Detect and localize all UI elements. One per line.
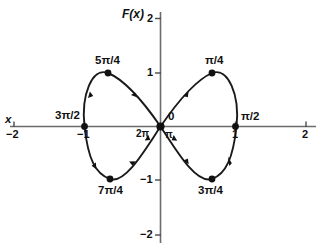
annotation-7pi-over-4: 7π/4: [98, 185, 123, 197]
annotation-pi-over-2: π/2: [241, 111, 259, 123]
x-tick-label--1: −1: [77, 129, 90, 140]
plot-canvas: [0, 0, 321, 251]
annotation-origin-zero: 0: [168, 111, 174, 123]
x-axis-label: x: [5, 114, 11, 126]
point-marker-5pi-over-4: [105, 70, 112, 77]
point-marker-3pi-over-4: [209, 176, 216, 183]
annotation-5pi-over-4: 5π/4: [95, 55, 120, 67]
y-tick-label-1: 1: [147, 67, 153, 78]
x-tick-label-2: 2: [302, 129, 308, 140]
annotation-pi-over-4: π/4: [205, 55, 223, 67]
direction-arrow-left-rise: [87, 91, 93, 98]
annotation-2pi: 2π: [136, 129, 149, 139]
annotation-3pi-over-2: 3π/2: [55, 110, 80, 122]
x-tick-label-1: 1: [232, 129, 238, 140]
direction-arrow-left-upper-return: [131, 92, 138, 98]
y-axis-label: F(x): [122, 8, 144, 20]
annotation-pi: π: [165, 130, 173, 140]
parametric-plot-figure: F(x) x −2 −1 1 2 2 1 −1 −2 5π/4 π/4 3π/2…: [0, 0, 321, 251]
point-marker-origin: [156, 122, 164, 130]
y-tick-label--2: −2: [140, 229, 153, 240]
point-marker-pi-over-4: [209, 70, 216, 77]
x-tick-label--2: −2: [6, 129, 19, 140]
annotation-3pi-over-4: 3π/4: [198, 185, 223, 197]
y-tick-label--1: −1: [140, 174, 153, 185]
y-tick-label-2: 2: [147, 13, 153, 24]
point-marker-7pi-over-4: [107, 176, 114, 183]
